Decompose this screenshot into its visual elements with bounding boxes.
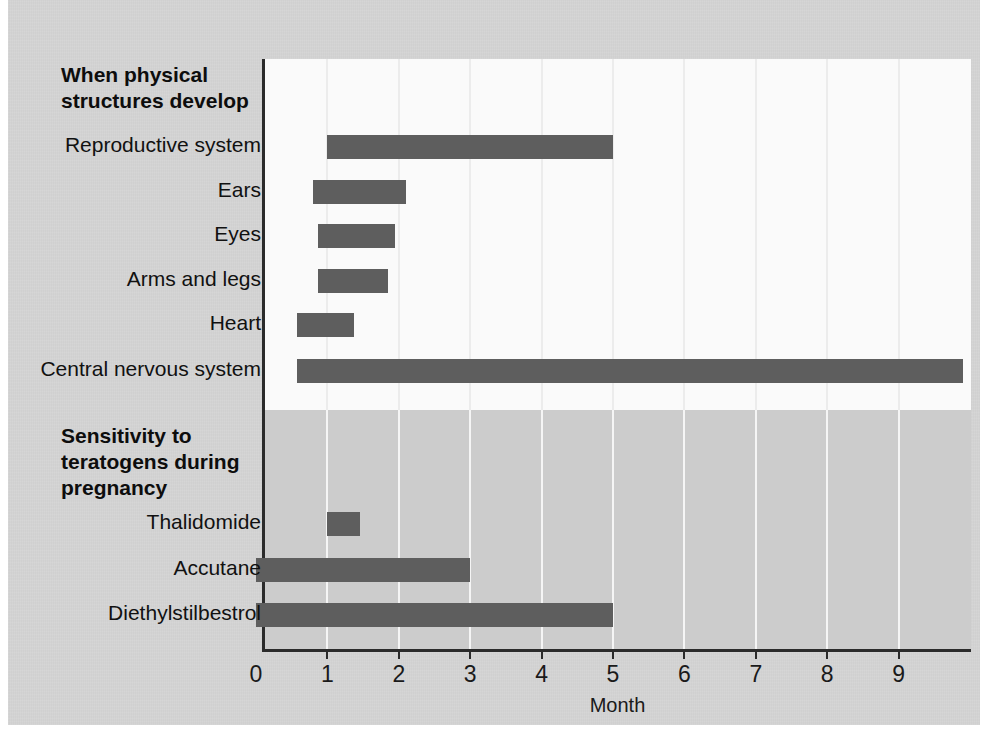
section-title-physical-structures: When physical structures develop xyxy=(61,62,249,114)
row-labels-layer: Reproductive systemEarsEyesArms and legs… xyxy=(8,0,261,725)
bar-reproductive-system xyxy=(327,135,613,159)
gridline-month-7 xyxy=(755,410,757,649)
bar-central-nervous-system xyxy=(297,359,963,383)
x-tick-label-9: 9 xyxy=(879,661,919,688)
row-label-thalidomide: Thalidomide xyxy=(15,510,261,534)
row-label-heart: Heart xyxy=(15,311,261,335)
x-tick-label-2: 2 xyxy=(379,661,419,688)
row-label-central-nervous-system: Central nervous system xyxy=(15,357,261,381)
gridline-month-9 xyxy=(898,59,900,410)
section-title-teratogen-sensitivity: Sensitivity to teratogens during pregnan… xyxy=(61,423,240,501)
bar-thalidomide xyxy=(327,512,359,536)
x-tick-label-1: 1 xyxy=(307,661,347,688)
gridline-month-6 xyxy=(683,410,685,649)
x-tick-2 xyxy=(398,649,400,659)
x-tick-3 xyxy=(469,649,471,659)
x-tick-4 xyxy=(541,649,543,659)
bar-arms-and-legs xyxy=(318,269,388,293)
x-tick-label-3: 3 xyxy=(450,661,490,688)
gridline-month-8 xyxy=(826,410,828,649)
gridline-month-5 xyxy=(612,59,614,410)
x-tick-9 xyxy=(898,649,900,659)
x-tick-label-4: 4 xyxy=(522,661,562,688)
x-tick-label-6: 6 xyxy=(664,661,704,688)
row-label-reproductive-system: Reproductive system xyxy=(15,133,261,157)
figure-panel: 0123456789 Reproductive systemEarsEyesAr… xyxy=(8,0,980,725)
row-label-accutane: Accutane xyxy=(15,556,261,580)
x-tick-8 xyxy=(826,649,828,659)
bar-diethylstilbestrol xyxy=(256,603,613,627)
chart-page: 0123456789 Reproductive systemEarsEyesAr… xyxy=(0,0,986,731)
gridline-month-2 xyxy=(398,59,400,410)
row-label-eyes: Eyes xyxy=(15,222,261,246)
x-tick-1 xyxy=(326,649,328,659)
x-axis-title: Month xyxy=(264,694,971,717)
x-tick-label-7: 7 xyxy=(736,661,776,688)
gridline-month-4 xyxy=(541,59,543,410)
gridline-month-9 xyxy=(898,410,900,649)
row-label-diethylstilbestrol: Diethylstilbestrol xyxy=(15,601,261,625)
gridline-month-7 xyxy=(755,59,757,410)
x-axis-line xyxy=(262,649,971,652)
bar-accutane xyxy=(256,558,470,582)
gridline-month-3 xyxy=(469,59,471,410)
gridline-month-8 xyxy=(826,59,828,410)
x-tick-5 xyxy=(612,649,614,659)
row-label-arms-and-legs: Arms and legs xyxy=(15,267,261,291)
x-tick-label-5: 5 xyxy=(593,661,633,688)
bar-ears xyxy=(313,180,406,204)
x-tick-label-8: 8 xyxy=(807,661,847,688)
bar-heart xyxy=(297,313,354,337)
row-label-ears: Ears xyxy=(15,178,261,202)
x-tick-7 xyxy=(755,649,757,659)
gridline-month-6 xyxy=(683,59,685,410)
x-tick-6 xyxy=(683,649,685,659)
bar-eyes xyxy=(318,224,395,248)
